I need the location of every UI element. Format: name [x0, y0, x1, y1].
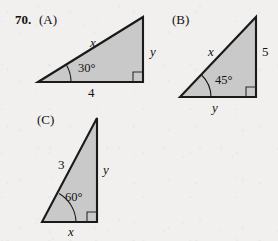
figure-a-hypotenuse-label: x — [90, 36, 96, 49]
triangle-c — [42, 118, 97, 222]
figure-b-hypotenuse-label: x — [208, 45, 214, 58]
figure-page: 70. (A) x y 4 30° (B) x 5 y 45° (C) 3 y … — [0, 0, 278, 241]
figure-a-tag: (A) — [39, 13, 57, 26]
figure-a-angle-label: 30° — [78, 62, 96, 75]
figure-c-hypotenuse-label: 3 — [58, 158, 65, 171]
problem-number: 70. — [15, 13, 31, 26]
figure-c-angle-label: 60° — [65, 191, 83, 204]
figure-b-base-label: y — [212, 101, 218, 114]
figure-b-tag: (B) — [172, 13, 189, 26]
figure-a-base-label: 4 — [88, 86, 95, 99]
figure-b-vertical-label: 5 — [262, 45, 269, 58]
figure-b-angle-label: 45° — [215, 74, 233, 87]
figure-c-tag: (C) — [37, 113, 54, 126]
figure-c-vertical-label: y — [103, 163, 109, 176]
figure-c-base-label: x — [68, 225, 74, 238]
figure-a-vertical-label: y — [150, 45, 156, 58]
